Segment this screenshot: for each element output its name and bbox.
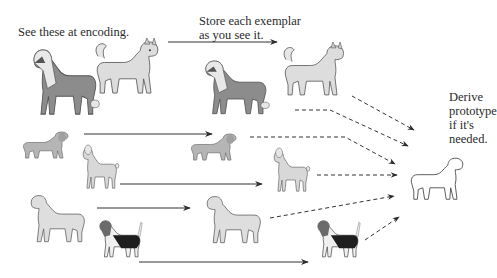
bulldog-dog-icon [31, 196, 84, 242]
derive-prototype-label: Derive prototype if it's needed. [449, 90, 497, 146]
stored-dachshund-dog-icon [191, 134, 236, 160]
store-exemplar-label: Store each exemplar as you see it. [199, 14, 301, 42]
stored-poodle-dog-icon [274, 148, 310, 191]
poodle-dog-icon [83, 145, 119, 188]
derive-label-line-3: if it's [449, 118, 497, 132]
store-label-line-2: as you see it. [199, 28, 301, 42]
stored-collie-dog-icon [206, 61, 269, 114]
store-label-line-1: Store each exemplar [199, 14, 301, 28]
encoding-label: See these at encoding. [18, 25, 129, 39]
stored-bulldog-dog-icon [207, 197, 260, 243]
prototype-dog-icon [411, 158, 462, 199]
husky-dog-icon [96, 38, 158, 93]
collie-dog-icon [34, 50, 99, 114]
derive-arrows [250, 96, 414, 240]
stored-basset-hound-dog-icon [318, 221, 360, 257]
basset-hound-dog-icon [100, 221, 142, 257]
derive-label-line-2: prototype [449, 104, 497, 118]
stored-husky-dog-icon [284, 42, 343, 95]
derive-label-line-4: needed. [449, 132, 497, 146]
dachshund-dog-icon [23, 132, 68, 158]
derive-label-line-1: Derive [449, 90, 497, 104]
